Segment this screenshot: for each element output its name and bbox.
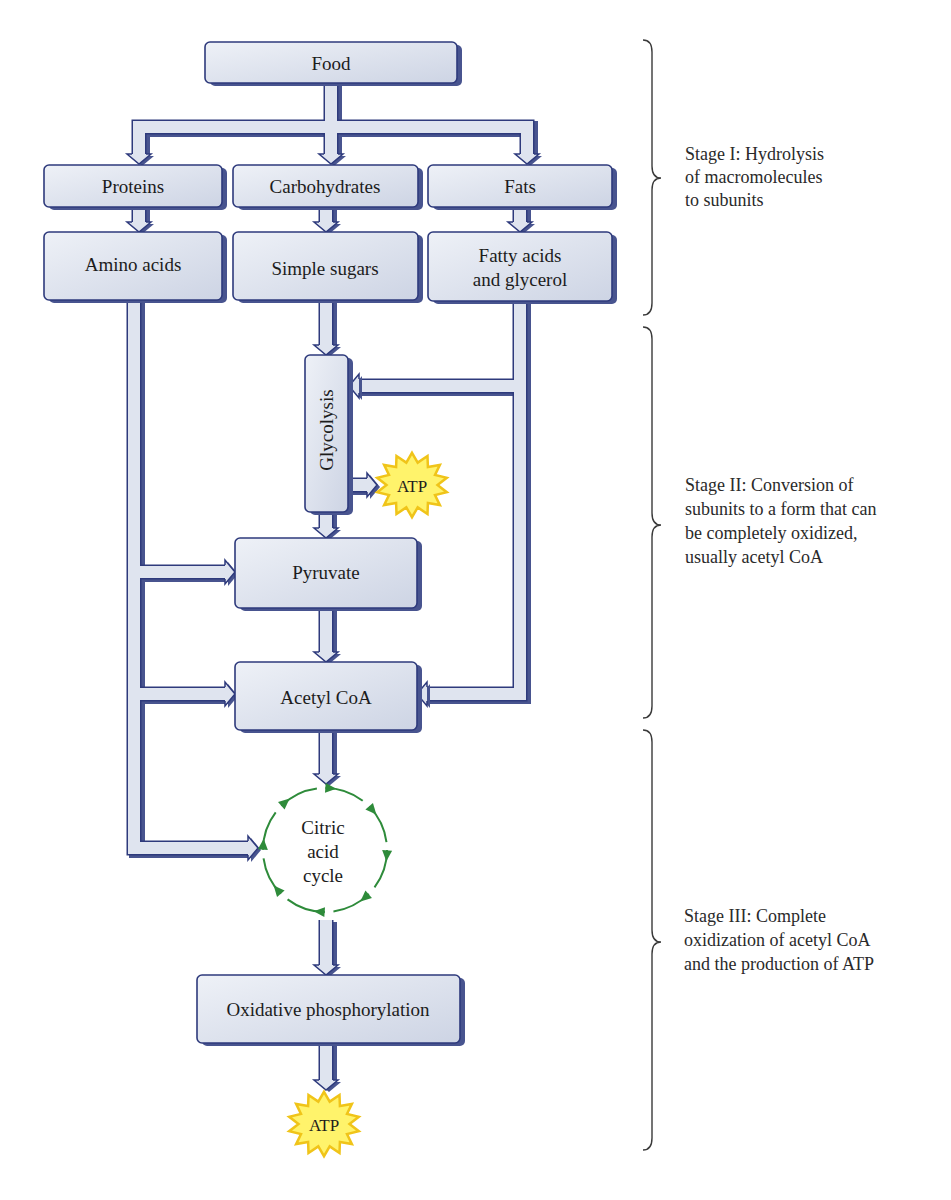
node-simple-sugars: Simple sugars (233, 232, 423, 303)
cycle-arrow-icon (313, 906, 325, 917)
cycle-arrow-icon (258, 838, 269, 850)
citric-cycle-label-line2: acid (307, 841, 339, 862)
node-acetyl-coa: Acetyl CoA (235, 662, 422, 733)
arrowhead-to-final-atp (314, 1080, 341, 1092)
node-amino-acids: Amino acids (44, 232, 227, 303)
stage-3: Stage III: Complete oxidization of acety… (643, 730, 874, 1150)
fatty-acids-connector (359, 301, 523, 696)
stage-3-brace (643, 730, 661, 1150)
acetyl-coa-to-citric-cycle-connector (326, 730, 329, 776)
node-food-label: Food (311, 53, 351, 74)
node-glycolysis: Glycolysis (305, 355, 353, 515)
oxidative-to-atp-connector (326, 1043, 329, 1082)
cycle-arrow-icon (278, 795, 293, 810)
node-fats: Fats (428, 165, 617, 210)
pyruvate-to-acetyl-coa-connector (326, 608, 329, 654)
stage-1-text: Stage I: Hydrolysis of macromolecules to… (685, 144, 829, 210)
stage-1: Stage I: Hydrolysis of macromolecules to… (643, 40, 829, 315)
cycle-arrow-icon (325, 783, 337, 794)
node-carbohydrates-label: Carbohydrates (270, 176, 381, 197)
food-distribution-connector (139, 83, 530, 156)
node-proteins-label: Proteins (102, 176, 164, 197)
stage-2: Stage II: Conversion of subunits to a fo… (643, 327, 881, 718)
cycle-arrow-icon (381, 850, 392, 862)
node-proteins: Proteins (44, 165, 227, 210)
simple-sugars-to-glycolysis-connector (326, 300, 329, 347)
node-food: Food (205, 42, 462, 86)
citric-cycle-to-oxidative-connector (326, 920, 329, 967)
node-pyruvate: Pyruvate (235, 538, 422, 611)
atp-burst-final: ATP (289, 1092, 359, 1156)
node-simple-sugars-label: Simple sugars (271, 258, 378, 279)
node-oxidative-phosphorylation-label: Oxidative phosphorylation (226, 999, 430, 1020)
node-fatty-acids: Fatty acids and glycerol (428, 232, 617, 304)
node-glycolysis-label: Glycolysis (316, 389, 337, 470)
cycle-arrow-icon (365, 803, 380, 818)
node-pyruvate-label: Pyruvate (292, 562, 360, 583)
stage-2-text: Stage II: Conversion of subunits to a fo… (685, 475, 881, 567)
node-acetyl-coa-label: Acetyl CoA (280, 687, 372, 708)
citric-cycle-label-line1: Citric (301, 817, 344, 838)
metabolism-stages-diagram: Food Proteins Carbohydrates Fats Amino a… (0, 0, 951, 1200)
node-fats-label: Fats (504, 176, 536, 197)
node-fatty-acids-label-line2: and glycerol (473, 269, 567, 290)
atp-final-label: ATP (309, 1116, 339, 1135)
atp-burst-glycolysis: ATP (377, 453, 447, 517)
cycle-arrow-icon (357, 890, 372, 905)
node-fatty-acids-label-line1: Fatty acids (479, 245, 562, 266)
stage-3-text: Stage III: Complete oxidization of acety… (684, 906, 874, 974)
citric-cycle-label-line3: cycle (303, 865, 343, 886)
cycle-arrow-icon (270, 882, 285, 897)
node-oxidative-phosphorylation: Oxidative phosphorylation (197, 975, 465, 1046)
atp-glycolysis-label: ATP (397, 477, 427, 496)
stage-1-brace (643, 40, 661, 315)
node-carbohydrates: Carbohydrates (233, 165, 423, 210)
node-citric-acid-cycle: Citric acid cycle (258, 783, 392, 917)
stage-2-brace (643, 327, 661, 718)
node-amino-acids-label: Amino acids (85, 254, 182, 275)
